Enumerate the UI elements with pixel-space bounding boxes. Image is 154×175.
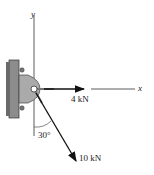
pin-icon [31,86,37,92]
x-axis-label: x [138,83,142,93]
angle-label: 30° [38,130,51,140]
force-diagram [0,0,154,175]
wall-plate [9,60,19,118]
y-axis-label: y [31,9,35,19]
force-10kn-arrow [36,93,76,161]
force-4kn-label: 4 kN [71,94,89,104]
force-10kn-label: 10 kN [79,153,101,163]
bolt-icon [20,106,24,110]
bolt-icon [20,68,24,72]
angle-arc [34,121,51,127]
diagram-canvas: y x 4 kN 10 kN 30° [0,0,154,175]
